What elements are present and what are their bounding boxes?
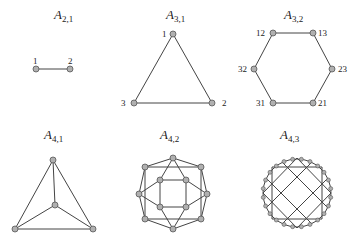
title-a43: A4,3 — [280, 127, 299, 144]
node-label: 3 — [121, 98, 126, 108]
node-label: 31 — [256, 98, 265, 108]
node-label: 12 — [256, 28, 265, 38]
node-label: 1 — [33, 56, 38, 66]
node-label: 32 — [238, 64, 247, 74]
node-label: 23 — [338, 64, 347, 74]
node-label: 1 — [162, 29, 167, 39]
node-label: 2 — [68, 56, 73, 66]
title-a41: A4,1 — [44, 127, 63, 144]
node-label: 13 — [318, 28, 327, 38]
title-a31: A3,1 — [166, 7, 185, 24]
node-label: 2 — [222, 98, 227, 108]
title-a21: A2,1 — [54, 7, 73, 24]
title-a32: A3,2 — [284, 7, 303, 24]
title-a42: A4,2 — [160, 127, 179, 144]
graphs-canvas — [0, 0, 355, 245]
node-label: 21 — [318, 98, 327, 108]
